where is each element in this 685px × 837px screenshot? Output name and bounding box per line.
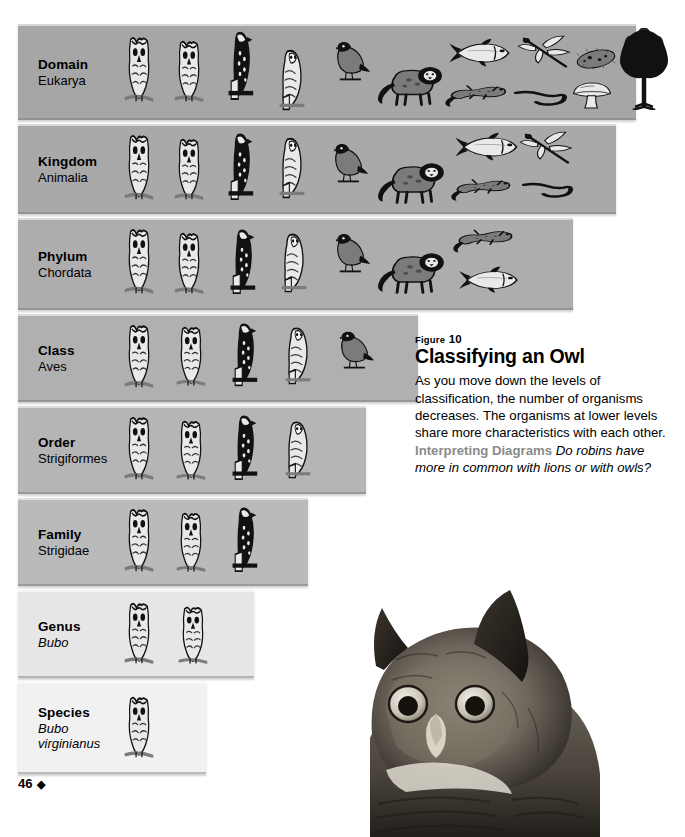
organism-mushroom <box>570 76 614 110</box>
organism-row <box>118 592 250 676</box>
organism-dragonfly <box>518 128 576 170</box>
classification-band-family: FamilyStrigidae <box>18 498 308 586</box>
organism-lizard <box>444 78 512 110</box>
organism-worm <box>514 84 570 110</box>
classification-band-phylum: PhylumChordata <box>18 218 573 310</box>
band-label-genus: GenusBubo <box>38 619 81 650</box>
taxon-name: Animalia <box>38 169 97 184</box>
organism-hawk <box>218 28 262 102</box>
organism-owl-horned-front <box>168 230 210 296</box>
classification-band-kingdom: KingdomAnimalia <box>18 124 616 214</box>
organism-owl-horned-front <box>118 226 160 296</box>
organism-fish <box>454 130 522 164</box>
taxon-name-line2: virginianus <box>38 736 100 751</box>
taxon-name: Strigidae <box>38 542 89 557</box>
figure-body: As you move down the levels of classific… <box>415 372 667 476</box>
figure-caption: Figure 10 Classifying an Owl As you move… <box>415 333 667 476</box>
organism-row <box>118 316 414 400</box>
rank-name: Domain <box>38 57 88 73</box>
organism-row <box>118 26 632 118</box>
organism-row <box>118 408 362 492</box>
organism-fish <box>458 264 522 296</box>
owl-pupil-right <box>465 696 485 716</box>
organism-owl-horned-front <box>118 322 160 390</box>
organism-robin <box>326 230 372 276</box>
band-label-species: SpeciesBubovirginianus <box>38 705 100 751</box>
organism-owl-horned-front <box>118 600 160 666</box>
rank-name: Order <box>38 435 107 451</box>
organism-owl-horned-front <box>168 136 210 202</box>
figure-body-text: As you move down the levels of classific… <box>415 373 666 440</box>
rank-name: Class <box>38 343 75 359</box>
band-label-kingdom: KingdomAnimalia <box>38 154 97 185</box>
organism-owl-horned-front <box>118 414 160 482</box>
organism-row <box>118 684 202 772</box>
organism-dragonfly <box>516 32 574 74</box>
organism-owl-horned-front <box>170 510 212 574</box>
organism-barn-owl <box>272 230 316 294</box>
organism-worm <box>522 176 576 202</box>
textbook-page: DomainEukarya <box>0 0 685 837</box>
organism-lizard <box>450 172 516 204</box>
rank-name: Family <box>38 527 89 543</box>
page-folio: 46◆ <box>18 776 45 791</box>
page-number: 46 <box>18 776 32 791</box>
rank-name: Genus <box>38 619 81 635</box>
organism-barn-owl <box>276 418 320 480</box>
figure-kicker: Figure 10 <box>415 333 667 345</box>
organism-owl-horned-front <box>172 604 214 666</box>
classification-band-genus: GenusBubo <box>18 590 254 678</box>
rank-name: Phylum <box>38 249 91 265</box>
figure-kicker-label: Figure <box>415 334 445 345</box>
taxon-name: Eukarya <box>38 72 88 87</box>
organism-robin <box>330 328 376 372</box>
organism-owl-horned-front <box>118 34 160 104</box>
organism-barn-owl <box>276 324 320 386</box>
organism-row <box>118 126 612 212</box>
taxon-name: Aves <box>38 358 75 373</box>
figure-kicker-number: 10 <box>449 333 462 345</box>
organism-lion <box>374 152 446 206</box>
organism-robin <box>326 38 372 84</box>
organism-paramecium <box>574 42 618 76</box>
taxon-name: Strigiformes <box>38 450 107 465</box>
organism-owl-horned-front <box>118 694 160 760</box>
organism-owl-horned-front <box>168 38 210 104</box>
classification-band-class: ClassAves <box>18 314 418 402</box>
taxon-name: Bubo <box>38 721 100 736</box>
organism-fish <box>448 36 514 70</box>
figure-title: Classifying an Owl <box>415 346 667 367</box>
organism-hawk <box>222 320 266 388</box>
organism-row <box>118 220 569 308</box>
organism-barn-owl <box>270 134 314 200</box>
owl-pupil-left <box>398 696 418 716</box>
organism-tree <box>616 28 672 110</box>
band-label-class: ClassAves <box>38 343 75 374</box>
organism-hawk <box>218 130 262 202</box>
band-label-phylum: PhylumChordata <box>38 249 91 280</box>
organism-owl-horned-front <box>118 506 160 574</box>
organism-hawk <box>220 226 264 296</box>
organism-owl-horned-front <box>170 324 212 388</box>
great-horned-owl-photo <box>362 588 685 837</box>
rank-name: Kingdom <box>38 154 97 170</box>
organism-robin <box>324 140 370 186</box>
classification-band-species: SpeciesBubovirginianus <box>18 682 206 774</box>
folio-diamond-icon: ◆ <box>37 778 45 790</box>
organism-barn-owl <box>270 46 314 112</box>
organism-hawk <box>222 412 266 482</box>
figure-lead-in: Interpreting Diagrams <box>415 443 552 458</box>
classification-band-order: OrderStrigiformes <box>18 406 366 494</box>
classification-band-domain: DomainEukarya <box>18 24 636 120</box>
taxon-name: Bubo <box>38 634 81 649</box>
organism-row <box>118 500 304 584</box>
organism-owl-horned-front <box>118 132 160 202</box>
rank-name: Species <box>38 705 100 721</box>
organism-owl-horned-front <box>170 418 212 482</box>
organism-lion <box>374 56 444 108</box>
band-label-order: OrderStrigiformes <box>38 435 107 466</box>
organism-lion <box>374 242 446 296</box>
organism-hawk <box>222 504 266 574</box>
owl-photo-graphic <box>362 588 685 837</box>
band-label-family: FamilyStrigidae <box>38 527 89 558</box>
